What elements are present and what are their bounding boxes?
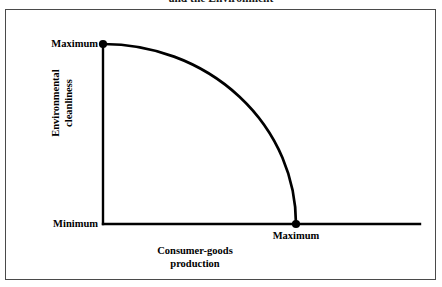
x-axis-title-line-2: production [120, 257, 270, 270]
figure-title: and the Environment [0, 0, 442, 4]
x-axis-title-line-1: Consumer-goods [120, 244, 270, 257]
y-axis-title-line-2: cleanliness [62, 48, 75, 158]
x-axis-title: Consumer-goods production [120, 244, 270, 270]
x-axis-max-label: Maximum [256, 230, 336, 241]
y-axis-title: Environmental cleanliness [49, 48, 83, 158]
y-axis-title-line-1: Environmental [49, 48, 62, 158]
y-axis-min-label: Minimum [44, 218, 98, 229]
